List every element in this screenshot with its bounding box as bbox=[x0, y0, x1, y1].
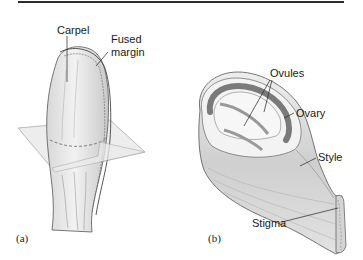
callout-carpel: Carpel bbox=[57, 24, 89, 36]
callout-ovules: Ovules bbox=[270, 67, 304, 79]
callout-style: Style bbox=[318, 151, 342, 163]
callout-ovary: Ovary bbox=[296, 107, 325, 119]
callout-stigma: Stigma bbox=[252, 217, 286, 229]
panel-label-a: (a) bbox=[16, 232, 28, 244]
callout-fused-margin-line1: Fused bbox=[111, 33, 142, 45]
panel-a-illustration bbox=[18, 36, 145, 232]
carpel-diagram bbox=[0, 0, 363, 260]
callout-fused-margin-line2: margin bbox=[111, 46, 145, 58]
panel-label-b: (b) bbox=[208, 232, 221, 244]
